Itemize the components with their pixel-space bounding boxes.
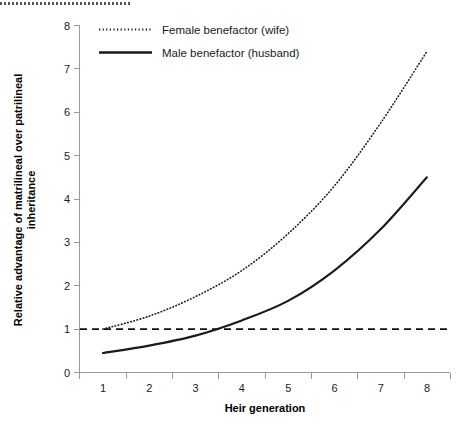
- y-axis-title-line2: inheritance: [25, 171, 37, 230]
- y-tick-label-8: 8: [64, 20, 70, 32]
- legend-label-female-benefactor: Female benefactor (wife): [162, 24, 289, 36]
- y-tick-label-0: 0: [64, 367, 70, 379]
- x-tick-label-4: 4: [239, 382, 245, 394]
- x-tick-label-2: 2: [146, 382, 152, 394]
- legend-label-male-benefactor: Male benefactor (husband): [162, 47, 300, 59]
- y-tick-label-2: 2: [64, 280, 70, 292]
- x-axis: 1 2 3 4 5 6 7 8 Heir generation: [80, 373, 451, 415]
- y-tick-label-6: 6: [64, 106, 70, 118]
- chart-legend: Female benefactor (wife) Male benefactor…: [99, 24, 300, 59]
- x-tick-label-1: 1: [100, 382, 106, 394]
- y-axis: 8 7 6 5 4 3 2 1 0 Relative advantage of …: [12, 20, 80, 379]
- x-tick-label-3: 3: [193, 382, 199, 394]
- y-tick-label-5: 5: [64, 150, 70, 162]
- chart-figure: 8 7 6 5 4 3 2 1 0 Relative advantage of …: [0, 0, 468, 429]
- y-axis-title-line1: Relative advantage of matrilineal over p…: [12, 74, 24, 326]
- y-axis-title: Relative advantage of matrilineal over p…: [12, 74, 37, 326]
- x-tick-label-5: 5: [285, 382, 291, 394]
- series-line-male-benefactor: [103, 177, 427, 353]
- x-axis-title: Heir generation: [225, 402, 306, 414]
- line-chart: 8 7 6 5 4 3 2 1 0 Relative advantage of …: [0, 0, 468, 429]
- y-tick-label-7: 7: [64, 63, 70, 75]
- x-tick-label-6: 6: [332, 382, 338, 394]
- x-tick-label-8: 8: [424, 382, 430, 394]
- y-tick-label-1: 1: [64, 323, 70, 335]
- y-tick-label-4: 4: [64, 193, 70, 205]
- x-tick-label-7: 7: [378, 382, 384, 394]
- y-tick-label-3: 3: [64, 236, 70, 248]
- series-line-female-benefactor: [103, 52, 427, 330]
